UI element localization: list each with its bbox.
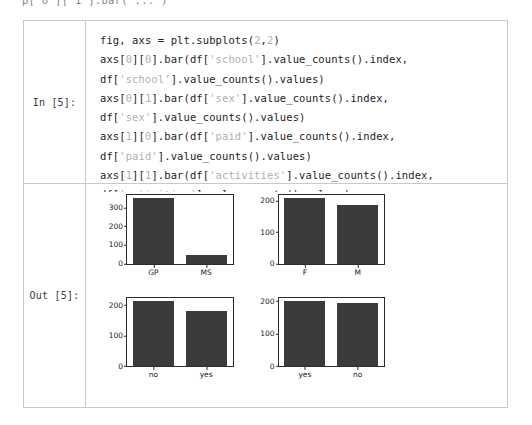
code-text: axs[ [100,92,126,104]
code-literal: 'school' [119,73,170,85]
matplotlib-figure: 0100200300GPMS0100200FM0100200noyes01002… [100,192,385,382]
output-prompt-label: Out [5]: [24,184,86,407]
code-line: axs[0][0].bar(df['school'].value_counts(… [100,50,507,69]
code-line: df['paid'].value_counts().values) [100,147,507,166]
output-cell-row: Out [5]: 0100200300GPMS0100200FM0100200n… [24,184,507,407]
x-tick-label: yes [298,371,311,379]
notebook-cell-table: In [5]: fig, axs = plt.subplots(2,2)axs[… [23,20,508,408]
code-line: df['school'].value_counts().values) [100,70,507,89]
code-text: ][ [132,53,145,65]
code-text: ].value_counts().index, [241,92,389,104]
y-tick-label: 200 [260,197,274,205]
x-tick-label: no [353,371,362,379]
code-text: ].bar(df[ [151,130,209,142]
y-tick-label: 0 [270,260,275,268]
subplot-school: 0100200300GPMS [100,192,234,280]
output-cell-body: 0100200300GPMS0100200FM0100200noyes01002… [86,184,507,407]
bar-series [127,298,233,367]
code-line: df['sex'].value_counts().values) [100,108,507,127]
code-line: axs[1][0].bar(df['paid'].value_counts().… [100,127,507,146]
y-tick-label: 200 [109,222,123,230]
code-text: axs[ [100,169,126,181]
x-tick-label: MS [201,269,212,277]
bar [337,205,378,264]
input-prompt-label: In [5]: [24,21,86,183]
input-cell-row: In [5]: fig, axs = plt.subplots(2,2)axs[… [24,21,507,184]
y-tick-label: 200 [260,297,274,305]
input-cell-body[interactable]: fig, axs = plt.subplots(2,2)axs[0][0].ba… [86,21,507,183]
code-literal: 'sex' [119,111,151,123]
bar-series [279,195,385,264]
y-tick-label: 0 [118,260,123,268]
bar [133,301,174,366]
clipped-text-line: p[ o ][ 1 ].bar( ... ) [22,0,322,6]
code-literal: 'sex' [209,92,241,104]
bar [284,301,325,366]
x-tick-label: yes [200,371,213,379]
code-source[interactable]: fig, axs = plt.subplots(2,2)axs[0][0].ba… [86,21,507,205]
code-text: df[ [100,73,119,85]
code-text: df[ [100,111,119,123]
plot-area-paid: 0100200noyes [126,297,234,368]
y-tick-label: 200 [109,301,123,309]
code-line: axs[1][1].bar(df['activities'].value_cou… [100,166,507,185]
x-tick-label: F [303,269,307,277]
code-line: fig, axs = plt.subplots(2,2) [100,31,507,50]
y-tick-label: 100 [260,228,274,236]
code-text: ].value_counts().values) [151,111,305,123]
code-literal: 'school' [209,53,260,65]
subplot-activities: 0100200yesno [252,295,386,383]
code-literal: 'paid' [119,150,158,162]
code-text: ][ [132,130,145,142]
subplot-paid: 0100200noyes [100,295,234,383]
code-text: ) [273,34,279,46]
code-text: ].bar(df[ [151,53,209,65]
code-text: ].bar(df[ [151,92,209,104]
y-tick-label: 100 [109,332,123,340]
y-tick-label: 300 [109,204,123,212]
code-literal: 'activities' [209,169,286,181]
code-text: ].value_counts().values) [171,73,325,85]
code-text: fig, axs = plt.subplots( [100,34,254,46]
code-text: axs[ [100,130,126,142]
code-text: ][ [132,92,145,104]
code-literal: 'paid' [209,130,248,142]
bar [186,311,227,366]
code-text: axs[ [100,53,126,65]
code-text: ].value_counts().index, [286,169,434,181]
code-text: df[ [100,150,119,162]
bar-series [279,298,385,367]
bar [186,255,227,264]
y-tick-label: 100 [260,330,274,338]
x-tick-label: GP [148,269,158,277]
bar [337,303,378,366]
code-text: ].bar(df[ [151,169,209,181]
x-tick-label: no [149,371,158,379]
plot-area-sex: 0100200FM [278,194,386,265]
y-tick-label: 0 [270,362,275,370]
code-text: ][ [132,169,145,181]
x-tick-label: M [354,269,360,277]
bar [133,198,174,263]
y-tick-label: 0 [118,362,123,370]
code-text: ].value_counts().index, [261,53,409,65]
subplot-sex: 0100200FM [252,192,386,280]
code-text: ].value_counts().values) [158,150,312,162]
y-tick-label: 100 [109,241,123,249]
code-text: ].value_counts().index, [248,130,396,142]
plot-area-school: 0100200300GPMS [126,194,234,265]
clipped-text-above-table: p[ o ][ 1 ].bar( ... ) [22,0,322,7]
bar [284,198,325,263]
plot-area-activities: 0100200yesno [278,297,386,368]
subplot-grid: 0100200300GPMS0100200FM0100200noyes01002… [100,192,385,382]
bar-series [127,195,233,264]
code-line: axs[0][1].bar(df['sex'].value_counts().i… [100,89,507,108]
